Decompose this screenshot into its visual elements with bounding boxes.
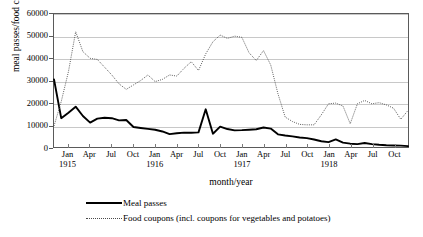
legend-label-food-coupons: Food coupons (incl. coupons for vegetabl… — [122, 213, 330, 224]
x-tick-mark — [177, 144, 178, 148]
x-tick-mark — [242, 144, 243, 148]
x-tick-mark — [89, 144, 90, 148]
x-tick-label: Oct — [382, 150, 408, 159]
x-tick-mark — [329, 144, 330, 148]
plot-area — [53, 13, 409, 148]
series-line-food — [54, 32, 408, 126]
y-tick-label: 60000 — [2, 9, 48, 18]
series-layer — [54, 14, 408, 147]
x-axis-title: month/year — [53, 177, 409, 187]
x-axis-year-label: 1916 — [140, 160, 170, 169]
y-tick-label: 0 — [2, 144, 48, 153]
y-tick-label: 30000 — [2, 76, 48, 85]
x-tick-mark — [220, 144, 221, 148]
legend-item-food-coupons: Food coupons (incl. coupons for vegetabl… — [86, 211, 386, 226]
y-tick-label: 50000 — [2, 31, 48, 40]
series-line-meal — [54, 79, 408, 146]
x-tick-mark — [307, 144, 308, 148]
chart-container: meal passes/food coupons 010000200003000… — [0, 0, 423, 237]
legend-item-meal-passes: Meal passes — [86, 196, 386, 211]
x-tick-mark — [286, 144, 287, 148]
x-axis-year-label: 1915 — [53, 160, 83, 169]
solid-line-key — [86, 198, 122, 209]
y-tick-label: 10000 — [2, 121, 48, 130]
x-axis-year-label: 1917 — [227, 160, 257, 169]
x-axis-ticks: JanAprJulOctJanAprJulOctJanAprJulOctJanA… — [53, 148, 409, 178]
x-tick-mark — [264, 144, 265, 148]
x-tick-mark — [395, 144, 396, 148]
legend-label-meal-passes: Meal passes — [122, 198, 167, 209]
x-axis-year-label: 1918 — [314, 160, 344, 169]
x-tick-mark — [373, 144, 374, 148]
y-tick-label: 40000 — [2, 54, 48, 63]
chart-legend: Meal passes Food coupons (incl. coupons … — [86, 196, 386, 226]
x-tick-mark — [68, 144, 69, 148]
x-tick-mark — [351, 144, 352, 148]
x-tick-mark — [198, 144, 199, 148]
x-tick-mark — [155, 144, 156, 148]
x-tick-mark — [111, 144, 112, 148]
y-axis-ticks: 0100002000030000400005000060000 — [0, 0, 53, 148]
y-tick-label: 20000 — [2, 99, 48, 108]
dotted-line-key — [86, 213, 122, 224]
x-tick-mark — [133, 144, 134, 148]
